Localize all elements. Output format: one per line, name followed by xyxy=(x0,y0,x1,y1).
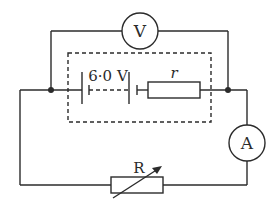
variable-resistor-label: R xyxy=(133,159,145,177)
internal-resistor-box xyxy=(148,82,200,98)
variable-resistor-arrowhead-icon xyxy=(152,166,162,174)
internal-resistance-label: r xyxy=(170,64,178,82)
battery-emf-label: 6·0 V xyxy=(88,67,129,85)
circuit-diagram: V 6·0 V r A R xyxy=(0,0,279,216)
internal-resistor: r xyxy=(148,64,200,98)
voltmeter-label: V xyxy=(133,21,147,41)
junction-left xyxy=(48,87,54,93)
ammeter: A xyxy=(229,125,265,161)
ammeter-label: A xyxy=(240,133,254,153)
variable-resistor: R xyxy=(111,159,163,198)
junction-right xyxy=(225,87,231,93)
variable-resistor-box xyxy=(111,177,163,193)
voltmeter: V xyxy=(122,13,158,49)
battery: 6·0 V xyxy=(82,67,137,104)
